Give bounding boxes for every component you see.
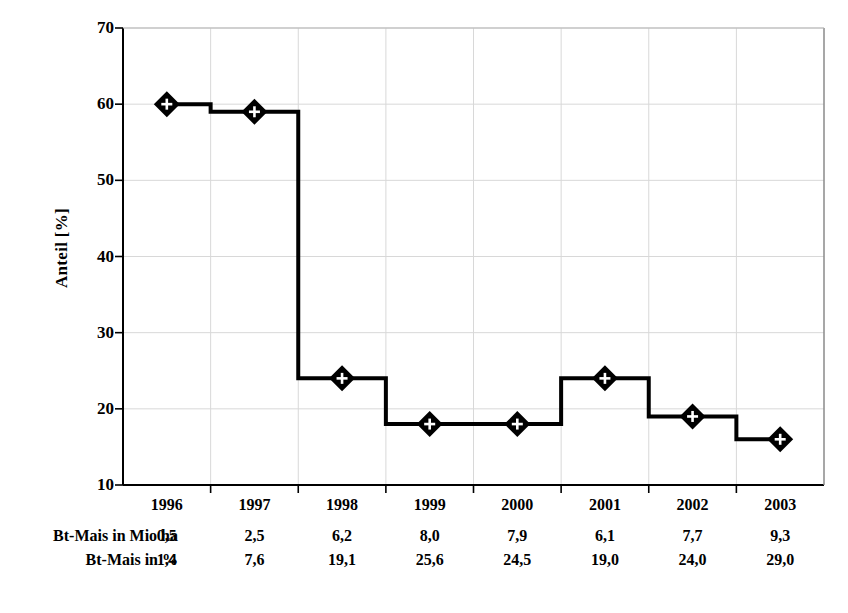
table-cell: 7,7 xyxy=(649,528,737,544)
line-chart-svg xyxy=(0,0,848,500)
table-cell: 7,6 xyxy=(211,552,299,568)
x-tick-label-2002: 2002 xyxy=(649,497,737,513)
table-cell: 1,4 xyxy=(123,552,211,568)
table-cell: 7,9 xyxy=(474,528,562,544)
x-axis-tick-labels: 19961997199819992000200120022003 xyxy=(123,497,824,523)
table-cell: 2,5 xyxy=(211,528,299,544)
table-row: Bt-Mais in %1,47,619,125,624,519,024,029… xyxy=(0,552,848,576)
x-tick-label-1997: 1997 xyxy=(211,497,299,513)
data-table: Bt-Mais in Mio ha0,52,56,28,07,96,17,79,… xyxy=(0,528,848,588)
table-cell: 0,5 xyxy=(123,528,211,544)
table-cell: 24,5 xyxy=(474,552,562,568)
table-row: Bt-Mais in Mio ha0,52,56,28,07,96,17,79,… xyxy=(0,528,848,552)
table-cell: 29,0 xyxy=(736,552,824,568)
table-cell: 9,3 xyxy=(736,528,824,544)
table-cell: 8,0 xyxy=(386,528,474,544)
table-cell: 24,0 xyxy=(649,552,737,568)
x-tick-label-1999: 1999 xyxy=(386,497,474,513)
x-tick-label-2001: 2001 xyxy=(561,497,649,513)
x-tick-label-1998: 1998 xyxy=(298,497,386,513)
chart-page: Anteil [%] 70605040302010 19961997199819… xyxy=(0,0,848,613)
table-cell: 25,6 xyxy=(386,552,474,568)
x-tick-label-1996: 1996 xyxy=(123,497,211,513)
chart-plot-area: Anteil [%] 70605040302010 19961997199819… xyxy=(0,0,848,500)
table-cell: 19,0 xyxy=(561,552,649,568)
table-cell: 19,1 xyxy=(298,552,386,568)
x-tick-label-2000: 2000 xyxy=(474,497,562,513)
table-cell: 6,2 xyxy=(298,528,386,544)
table-cell: 6,1 xyxy=(561,528,649,544)
x-tick-label-2003: 2003 xyxy=(736,497,824,513)
